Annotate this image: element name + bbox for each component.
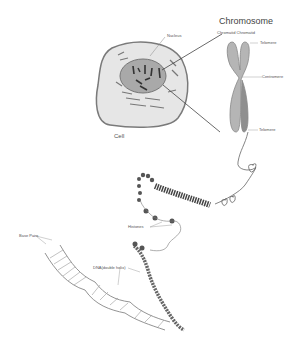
chromosome-title: Chromosome [219,17,273,26]
label-nucleus: Nucleus [167,34,181,38]
label-histones: Histones [128,225,144,229]
cell-illustration [96,42,187,127]
label-base-pairs: Base Pairs [19,234,38,238]
chromatin-fiber [215,132,256,206]
chromosome-illustration [227,42,249,132]
label-centromere: Centromere [262,75,283,79]
label-cell: Cell [114,133,124,139]
label-telomere-top: Telomere [260,41,276,45]
nucleosome-strand [133,242,185,331]
solenoid-fiber [137,173,210,251]
dna-double-helix [45,245,170,330]
dna-chromosome-diagram [0,0,296,350]
label-telomere-bottom: Telomere [259,128,275,132]
label-chromatids: Chromatid Chromatid [217,31,255,35]
label-dna-helix: DNA(double helix) [93,266,125,270]
